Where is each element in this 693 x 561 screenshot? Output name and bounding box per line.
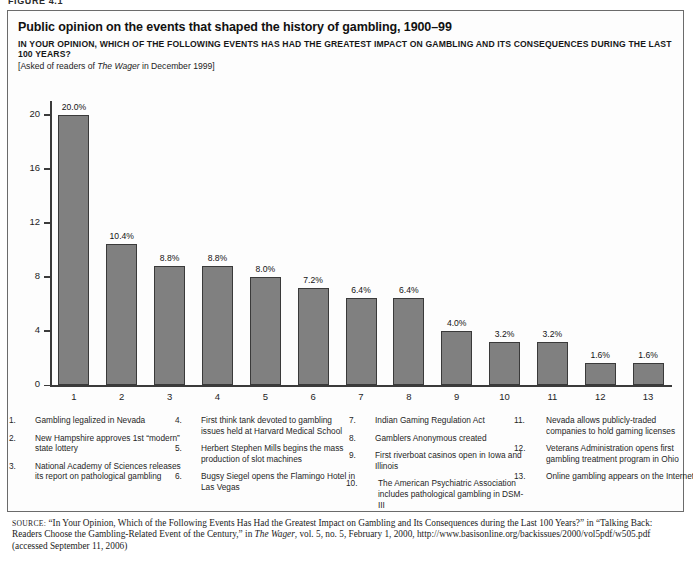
bar-value-label: 20.0% [52, 102, 96, 112]
x-tick-label: 4 [201, 391, 233, 402]
bar [250, 277, 281, 385]
bar-value-label: 6.4% [387, 285, 431, 295]
figure-frame: Public opinion on the events that shaped… [7, 10, 684, 512]
y-tick-mark [44, 222, 51, 224]
legend-item-number: 1. [9, 415, 22, 426]
legend-item-number: 12. [514, 443, 530, 454]
legend: 1.Gambling legalized in Nevada2.New Hamp… [22, 415, 682, 519]
bar-value-label: 8.8% [148, 253, 192, 263]
bar-value-label: 4.0% [435, 318, 479, 328]
asked-suffix: in December 1999] [140, 61, 215, 71]
bar [585, 363, 616, 385]
source-publication: The Wager [255, 529, 295, 539]
legend-item-label: First think tank devoted to gambling iss… [201, 415, 342, 436]
x-tick-label: 11 [536, 391, 568, 402]
bar [633, 363, 664, 385]
x-tick-label: 7 [345, 391, 377, 402]
legend-item-number: 3. [9, 461, 22, 472]
legend-item-label: Nevada allows publicly-traded companies … [546, 415, 675, 436]
bar-value-label: 7.2% [291, 275, 335, 285]
y-tick-mark [44, 385, 51, 387]
legend-item-number: 6. [175, 471, 188, 482]
x-axis-line [50, 385, 672, 387]
figure-label: FIGURE 4.1 [8, 0, 63, 5]
figure-title: Public opinion on the events that shaped… [18, 20, 452, 34]
bar [202, 266, 233, 385]
bar-chart-plot: 048121620 20.0%10.4%8.8%8.8%8.0%7.2%6.4%… [18, 89, 674, 409]
y-tick-label: 4 [18, 324, 40, 335]
asked-prefix: [Asked of readers of [18, 61, 97, 71]
bar-value-label: 1.6% [626, 350, 670, 360]
y-axis-line [50, 101, 52, 387]
legend-item-label: Gambling legalized in Nevada [35, 415, 145, 425]
bar-value-label: 6.4% [339, 285, 383, 295]
y-tick-label: 12 [18, 216, 40, 227]
legend-item: 13.Online gambling appears on the Intern… [530, 471, 693, 482]
legend-item: 11.Nevada allows publicly-traded compani… [530, 415, 693, 436]
legend-item-label: Bugsy Siegel opens the Flamingo Hotel in… [201, 471, 355, 492]
legend-item: 10.The American Psychiatric Association … [362, 478, 530, 510]
asked-of-note: [Asked of readers of The Wager in Decemb… [18, 61, 215, 71]
x-tick-label: 9 [441, 391, 473, 402]
bar [537, 342, 568, 385]
asked-publication: The Wager [97, 61, 139, 71]
bar [346, 298, 377, 385]
bar [58, 115, 89, 385]
legend-item-label: Veterans Administration opens first gamb… [546, 443, 679, 464]
legend-item: 1.Gambling legalized in Nevada [22, 415, 182, 426]
x-tick-label: 3 [154, 391, 186, 402]
legend-item-label: Gamblers Anonymous created [375, 433, 487, 443]
legend-item-number: 9. [349, 450, 362, 461]
source-note: SOURCE: “In Your Opinion, Which of the F… [12, 518, 684, 552]
legend-item: 4.First think tank devoted to gambling i… [188, 415, 356, 436]
legend-item-number: 13. [514, 471, 530, 482]
y-tick-label: 0 [18, 378, 40, 389]
bar-value-label: 8.8% [195, 253, 239, 263]
legend-item-number: 4. [175, 415, 188, 426]
legend-item-label: First riverboat casinos open in Iowa and… [375, 450, 522, 471]
bar-value-label: 8.0% [243, 264, 287, 274]
x-tick-label: 6 [297, 391, 329, 402]
legend-item: 3.National Academy of Sciences releases … [22, 461, 182, 482]
legend-item-label: National Academy of Sciences releases it… [35, 461, 181, 482]
legend-item: 7.Indian Gaming Regulation Act [362, 415, 530, 426]
y-tick-label: 20 [18, 108, 40, 119]
x-tick-label: 12 [584, 391, 616, 402]
legend-item-number: 7. [349, 415, 362, 426]
legend-item: 9.First riverboat casinos open in Iowa a… [362, 450, 530, 471]
source-label: SOURCE: [12, 519, 46, 528]
bar [441, 331, 472, 385]
figure-subtitle: IN YOUR OPINION, WHICH OF THE FOLLOWING … [18, 39, 683, 59]
bar [489, 342, 520, 385]
legend-item: 6.Bugsy Siegel opens the Flamingo Hotel … [188, 471, 356, 492]
bar [154, 266, 185, 385]
y-tick-label: 16 [18, 162, 40, 173]
legend-column: 11.Nevada allows publicly-traded compani… [530, 415, 693, 489]
legend-item: 5.Herbert Stephen Mills begins the mass … [188, 443, 356, 464]
x-tick-label: 10 [489, 391, 521, 402]
legend-item: 8.Gamblers Anonymous created [362, 433, 530, 444]
y-tick-mark [44, 330, 51, 332]
legend-column: 7.Indian Gaming Regulation Act8.Gamblers… [362, 415, 530, 517]
legend-item-number: 8. [349, 433, 362, 444]
x-tick-label: 2 [106, 391, 138, 402]
y-tick-mark [44, 276, 51, 278]
legend-item-label: New Hampshire approves 1st “modern” stat… [35, 433, 180, 454]
legend-column: 4.First think tank devoted to gambling i… [188, 415, 356, 500]
bar-value-label: 1.6% [578, 350, 622, 360]
bar-value-label: 3.2% [483, 329, 527, 339]
x-tick-label: 5 [249, 391, 281, 402]
x-tick-label: 8 [393, 391, 425, 402]
legend-column: 1.Gambling legalized in Nevada2.New Hamp… [22, 415, 182, 489]
y-tick-label: 8 [18, 270, 40, 281]
bar [106, 244, 137, 385]
legend-item-number: 11. [514, 415, 530, 426]
legend-item: 12.Veterans Administration opens first g… [530, 443, 693, 464]
legend-item-label: Online gambling appears on the Internet [546, 471, 693, 481]
legend-item-number: 2. [9, 433, 22, 444]
x-tick-label: 1 [58, 391, 90, 402]
y-tick-mark [44, 168, 51, 170]
bar [298, 288, 329, 385]
legend-item-number: 10. [346, 478, 362, 489]
legend-item-number: 5. [175, 443, 188, 454]
